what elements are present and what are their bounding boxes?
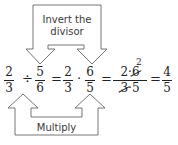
invert-label-line2: divisor — [50, 26, 83, 37]
invert-label-line1: Invert the — [43, 14, 92, 25]
fraction-dividend: 2 3 — [4, 66, 14, 95]
fraction-result: 4 5 — [162, 66, 172, 95]
fraction-dividend-copy: 2 3 — [63, 66, 73, 95]
invert-label: Invert the divisor — [33, 14, 101, 38]
cancelled-three: 3 — [120, 82, 128, 95]
multiply-label: Multiply — [31, 122, 82, 134]
equals-operator-2: = — [101, 72, 112, 85]
equals-operator-3: = — [150, 72, 161, 85]
equals-operator-1: = — [51, 72, 62, 85]
divide-operator: ÷ — [22, 72, 33, 85]
division-of-fractions-diagram: Invert the divisor Multiply 2 3 ÷ 5 6 = … — [0, 0, 178, 145]
cancelled-six: 6 — [132, 66, 140, 79]
fraction-cancel: 2·6 3·5 — [113, 66, 147, 95]
multiply-operator: · — [77, 72, 81, 85]
fraction-divisor: 5 6 — [35, 66, 45, 95]
fraction-reciprocal: 6 5 — [85, 66, 95, 95]
